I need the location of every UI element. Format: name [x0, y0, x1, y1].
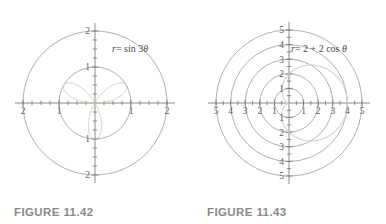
x-tick-label: 1 — [272, 106, 277, 116]
figure-caption: FIGURE 11.43 — [207, 206, 287, 218]
y-tick-label: 4 — [279, 40, 284, 50]
x-tick-label: 1 — [301, 106, 306, 116]
x-tick-label: 2 — [316, 106, 321, 116]
y-tick-label: 1 — [279, 84, 284, 94]
y-tick-label: 5 — [279, 171, 284, 181]
y-tick-label: 2 — [85, 170, 90, 180]
figure-pair: 21121212 r= sin 3θ FIGURE 11.42 54321123… — [0, 0, 386, 224]
figure-caption: FIGURE 11.42 — [14, 206, 94, 218]
x-tick-label: 5 — [360, 106, 365, 116]
x-tick-label: 2 — [21, 106, 26, 116]
y-tick-label: 2 — [85, 26, 90, 36]
y-tick-label: 4 — [279, 157, 284, 167]
x-tick-label: 4 — [228, 106, 233, 116]
polar-plot-cardioid: 54321123451234512345 r= 2 + 2 cos θ — [193, 0, 386, 196]
x-tick-label: 3 — [243, 106, 248, 116]
x-tick-label: 2 — [257, 106, 262, 116]
y-tick-label: 2 — [279, 69, 284, 79]
y-tick-label: 5 — [279, 25, 284, 35]
x-tick-label: 2 — [165, 106, 170, 116]
x-tick-label: 5 — [214, 106, 219, 116]
y-tick-label: 1 — [85, 62, 90, 72]
x-tick-label: 1 — [129, 106, 134, 116]
figure-11-42: 21121212 r= sin 3θ FIGURE 11.42 — [0, 0, 193, 224]
figure-11-43: 54321123451234512345 r= 2 + 2 cos θ FIGU… — [193, 0, 386, 224]
x-tick-label: 3 — [330, 106, 335, 116]
x-tick-label: 4 — [345, 106, 350, 116]
equation-label: r= sin 3θ — [112, 43, 148, 54]
equation-label: r= 2 + 2 cos θ — [291, 43, 347, 54]
x-tick-label: 1 — [57, 106, 62, 116]
y-tick-label: 1 — [279, 113, 284, 123]
y-tick-label: 3 — [279, 55, 284, 65]
y-tick-label: 2 — [279, 128, 284, 138]
y-tick-label: 3 — [279, 142, 284, 152]
polar-plot-rose: 21121212 r= sin 3θ — [0, 0, 193, 196]
y-tick-label: 1 — [85, 134, 90, 144]
